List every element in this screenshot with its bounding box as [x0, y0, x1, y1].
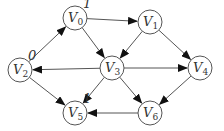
- edge-v0-v1: [87, 19, 137, 22]
- edge-v0-v3: [82, 28, 104, 58]
- node-v0: V01: [63, 0, 91, 30]
- node-v1: V1: [138, 10, 162, 34]
- edge-v3-v6: [120, 77, 142, 103]
- edge-v2-v5: [29, 77, 64, 105]
- edge-v1-v3: [120, 31, 142, 58]
- node-annotation: 1: [83, 0, 91, 11]
- node-v2: V20: [8, 48, 36, 82]
- node-v6: V6: [138, 101, 162, 125]
- graph-canvas: V01V1V20V3V4V51V6: [0, 0, 224, 131]
- node-annotation: 1: [83, 91, 91, 106]
- graph-diagram: V01V1V20V3V4V51V6: [0, 0, 224, 131]
- node-annotation: 0: [28, 48, 36, 63]
- edge-v4-v6: [160, 76, 191, 104]
- node-v3: V3: [100, 56, 124, 80]
- node-v4: V4: [188, 56, 212, 80]
- edge-v3-v2: [33, 68, 100, 69]
- node-v5: V51: [63, 91, 91, 125]
- nodes: V01V1V20V3V4V51V6: [8, 0, 212, 125]
- edge-v1-v4: [159, 30, 191, 59]
